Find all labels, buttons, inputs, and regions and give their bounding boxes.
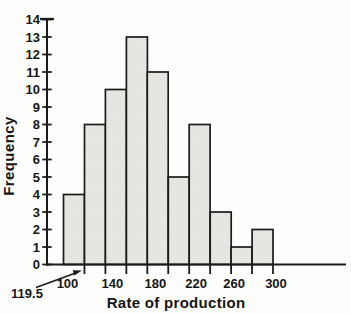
y-tick-label: 11: [26, 65, 40, 80]
bar: [189, 125, 210, 265]
y-tick-label: 6: [33, 152, 40, 167]
boundary-annotation: 119.5: [11, 286, 43, 301]
x-tick-label: 300: [265, 276, 287, 291]
y-tick-label: 2: [33, 222, 40, 237]
bar: [105, 90, 126, 265]
bar: [85, 125, 106, 265]
y-tick-label: 14: [26, 12, 41, 27]
y-tick-label: 7: [33, 135, 40, 150]
bar: [64, 195, 85, 265]
bar: [168, 177, 189, 265]
bar: [126, 37, 147, 265]
y-tick-label: 8: [33, 117, 40, 132]
y-tick-label: 13: [26, 30, 40, 45]
arrow-head-icon: [73, 270, 82, 275]
x-tick-label: 260: [223, 276, 245, 291]
y-axis-title: Frequency: [0, 116, 17, 196]
y-tick-label: 3: [33, 205, 40, 220]
histogram-chart: 01234567891011121314100140180220260300Fr…: [0, 0, 351, 313]
x-tick-label: 180: [144, 276, 166, 291]
y-tick-label: 4: [33, 187, 41, 202]
y-tick-label: 10: [26, 82, 40, 97]
bars-group: [64, 37, 274, 265]
y-tick-label: 12: [26, 47, 40, 62]
bar: [147, 72, 168, 265]
bar: [252, 230, 273, 265]
y-tick-label: 5: [33, 170, 40, 185]
bar: [231, 247, 252, 265]
x-axis-title: Rate of production: [107, 294, 246, 311]
plot-area: 01234567891011121314100140180220260300Fr…: [0, 0, 351, 313]
x-tick-label: 140: [102, 276, 124, 291]
y-tick-label: 0: [33, 257, 40, 272]
x-tick-label: 220: [185, 276, 207, 291]
y-tick-label: 9: [33, 100, 40, 115]
bar: [210, 212, 231, 265]
y-tick-label: 1: [33, 240, 40, 255]
